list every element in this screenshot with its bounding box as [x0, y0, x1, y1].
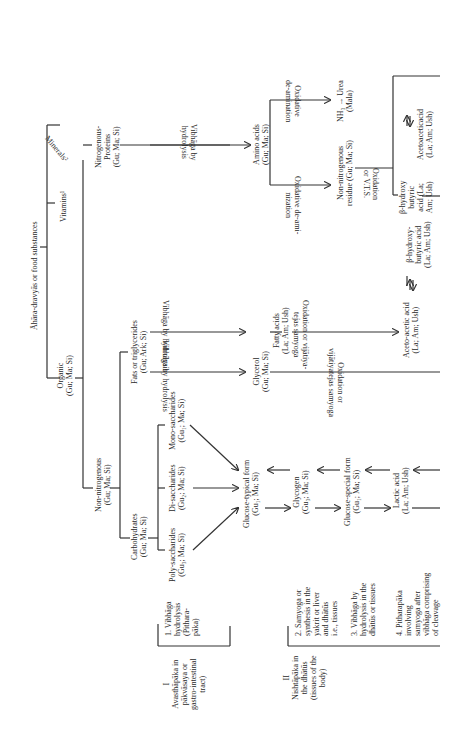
- glucose-special-form-label: Glucose-special form (Gu₁; Ma; Si): [343, 457, 361, 526]
- non-nitrogenous-residue-label: Non-nitrogenous residue (Gu; Ma; Si): [336, 140, 354, 206]
- beta-hydroxy-butyric-acid-label-1: β-hydroxy- butyric acid (La; Am; Ush): [405, 221, 432, 268]
- stage-1-title: I Avasthāpāka in pākvāsaya or gastro-int…: [162, 658, 207, 710]
- amino-acids-label: Amino acids (Gu; Ma; Si): [252, 124, 270, 165]
- fats-label: Fats or triglycerides (Gu; Ark; Si): [130, 320, 148, 384]
- carbohydrates-label: Carbohydrates (Gu; Ma; Si): [130, 513, 148, 560]
- vitamins-label: Vitamins¹: [59, 191, 68, 222]
- step-3-vibhaga: 3. Vibhāga by hydrolysis in the dhātūs o…: [350, 583, 377, 636]
- step-4-pitharapaka: 4. Pitharapāka involving samyoga after v…: [395, 573, 440, 636]
- fatty-acids-label: Fatty acids (La; Am; Ush): [272, 307, 290, 354]
- non-nitrogenous-label: Non-nitrogenous (Gu; Ma; Si): [94, 458, 112, 512]
- step-2-samyoga: 2. Samyoga or synthesis in the yakrit or…: [294, 587, 339, 636]
- aceto-acetic-acid-label: Aceto-acetic acid (La; Am; Ush): [402, 302, 420, 358]
- root-label: Āhāra-dravyās or food substances: [30, 221, 39, 330]
- glucose-typical-form-label: Glucose-typical form (Gu₁; Ma; Si): [242, 460, 260, 528]
- mono-saccharides-label: Mono-saccharides (Gu₁; Ma; Si): [168, 391, 186, 450]
- protein-hydrolysis-label: Vibhāga by hydrolysis: [180, 124, 198, 161]
- stage-1-step: 1. Vibhāga hydrolysis (Pithara- pāka): [164, 602, 200, 636]
- poly-saccharides-label: Poly-saccharides (Gu₃; Ma; Si): [168, 528, 186, 582]
- oxidation-fatty-label: Oxidation or vijātiya- tejas samyoga: [292, 300, 310, 369]
- acetoacetic-acid-label: Acetoaceticacid (La; Am; Ush): [416, 109, 434, 160]
- oxidative-deamination-label-1: Oxidative de-ami- nization: [284, 176, 302, 234]
- lactic-acid-label: Lactic acid (La; Am; Ush): [392, 467, 410, 514]
- oxidation-glycerol-label: Oxidation or vijātiyatejas samyoga: [327, 348, 345, 417]
- fat-hydrolysis-label-2: Vibhāga by hydrolysis: [161, 340, 170, 412]
- glycogen-label: Glycogen (Gu₃; Ma; Si): [292, 470, 310, 514]
- beta-hydroxy-butyric-acid-label-2: β-hydroxy butyric acid (La; Am; Ush): [398, 181, 434, 214]
- di-saccharides-label: Di-saccharides (Gu₂; Ma; Si): [168, 464, 186, 512]
- stage-2-title: II Nishtāpāka in the dhātūs (tissues of …: [282, 656, 327, 700]
- oxidation-vts-label: Oxidation or V.T.S.: [362, 168, 380, 200]
- organic-label: Organic (Gu; Ma; Si): [56, 355, 74, 396]
- glycerol-label: Glycerol (Gu; Ma; Si): [252, 351, 270, 392]
- oxidative-deamination-label-2: Oxidative de-amination: [284, 80, 302, 122]
- urea-label: NH₃ → Urea (Mala): [336, 80, 354, 122]
- nitrogenous-proteins-label: Nitrogenous- Proteins (Gu; Ma; Si): [94, 126, 121, 168]
